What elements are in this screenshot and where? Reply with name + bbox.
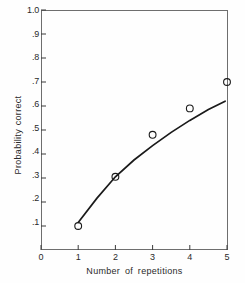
y-axis-ticks xyxy=(41,10,46,226)
plot-canvas xyxy=(0,0,245,283)
data-point-markers xyxy=(75,79,231,230)
fitted-curve xyxy=(78,101,225,222)
chart-figure: 1.0 .9 .8 .7 .6 .5 .4 .3 .2 .1 0 1 2 3 4… xyxy=(0,0,245,283)
x-axis-ticks xyxy=(41,245,227,250)
